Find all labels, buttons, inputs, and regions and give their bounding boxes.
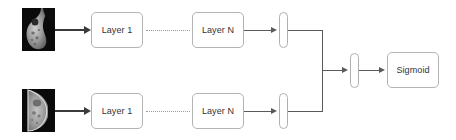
arrowhead-layern-to-featurebar-top: [271, 27, 277, 33]
edge-layern-to-featurebar-top: [244, 30, 273, 31]
mammogram-thumbnail-top: [22, 8, 55, 51]
node-layer-1-bottom[interactable]: Layer 1: [91, 93, 143, 129]
node-layer-1-top-label: Layer 1: [102, 25, 133, 35]
edge-junction-vertical-bottom: [322, 70, 323, 111]
node-layer-n-top-label: Layer N: [202, 25, 234, 35]
arrowhead-dense-bar-to-sigmoid: [379, 67, 385, 73]
dotted-connector-top: [146, 30, 190, 31]
network-architecture-diagram: Layer 1 Layer N: [0, 0, 456, 140]
edge-input-to-layer1-top: [55, 29, 84, 31]
edge-layern-to-featurebar-bottom: [244, 111, 273, 112]
arrowhead-junction-to-dense-bar: [342, 67, 348, 73]
node-layer-1-bottom-label: Layer 1: [102, 106, 133, 116]
node-layer-n-bottom-label: Layer N: [202, 106, 234, 116]
edge-featurebar-top-to-junction: [288, 30, 323, 31]
edge-junction-to-dense-bar: [322, 70, 344, 71]
node-layer-n-bottom[interactable]: Layer N: [192, 93, 244, 129]
node-sigmoid-output-label: Sigmoid: [396, 65, 429, 75]
mammogram-thumbnail-bottom: [22, 89, 55, 132]
node-layer-n-top[interactable]: Layer N: [192, 12, 244, 48]
edge-input-to-layer1-bottom: [55, 110, 84, 112]
mammogram-image-top: [22, 8, 55, 51]
dotted-connector-bottom: [146, 111, 190, 112]
merged-dense-vector-bar[interactable]: [350, 53, 359, 88]
node-layer-1-top[interactable]: Layer 1: [91, 12, 143, 48]
edge-featurebar-bottom-to-junction: [288, 111, 323, 112]
feature-vector-bar-top[interactable]: [279, 12, 288, 48]
feature-vector-bar-bottom[interactable]: [279, 93, 288, 129]
mammogram-image-bottom: [22, 89, 55, 132]
arrowhead-input-to-layer1-top: [84, 26, 91, 34]
edge-junction-vertical-top: [322, 30, 323, 71]
arrowhead-input-to-layer1-bottom: [84, 107, 91, 115]
node-sigmoid-output[interactable]: Sigmoid: [387, 52, 439, 88]
edge-dense-bar-to-sigmoid: [359, 70, 381, 71]
arrowhead-layern-to-featurebar-bottom: [271, 108, 277, 114]
